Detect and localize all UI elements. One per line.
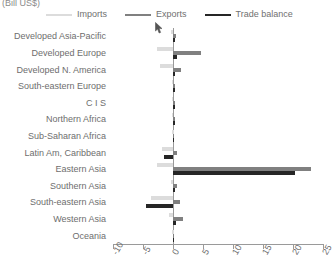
x-tick-label-6: 20: [291, 243, 304, 256]
legend-item-exports: Exports: [125, 10, 187, 19]
legend-label-balance: Trade balance: [236, 10, 293, 19]
chart-legend: ImportsExportsTrade balance: [46, 10, 293, 19]
category-label-0: Developed Asia-Pacific: [14, 32, 106, 41]
category-label-10: South-eastern Asia: [30, 198, 106, 207]
category-labels: Developed Asia-PacificDeveloped EuropeDe…: [0, 28, 110, 244]
bar-row: [113, 138, 323, 142]
category-label-9: Southern Asia: [50, 181, 106, 190]
x-tick-label-2: 0: [171, 248, 181, 257]
bar-balance-1: [173, 55, 177, 59]
legend-label-exports: Exports: [156, 10, 187, 19]
legend-item-imports: Imports: [46, 10, 107, 19]
bar-balance-5: [173, 121, 175, 125]
bar-balance-11: [173, 221, 176, 225]
category-label-2: Developed N. America: [16, 65, 106, 74]
category-label-6: Sub-Saharan Africa: [28, 132, 106, 141]
mouse-cursor-icon: [155, 22, 163, 34]
x-tick-label-5: 15: [261, 243, 274, 256]
bar-row: [113, 105, 323, 109]
bar-balance-7: [164, 155, 173, 159]
bar-balance-12: [173, 238, 174, 242]
bar-balance-6: [173, 138, 174, 142]
bar-row: [113, 171, 323, 175]
legend-label-imports: Imports: [77, 10, 107, 19]
bar-balance-2: [173, 72, 175, 76]
bar-balance-4: [173, 105, 175, 109]
category-label-5: Northern Africa: [46, 115, 106, 124]
category-label-12: Oceania: [72, 231, 106, 240]
category-label-3: South-eastern Europe: [18, 82, 106, 91]
bar-row: [113, 221, 323, 225]
category-label-4: C I S: [86, 98, 106, 107]
legend-swatch-balance: [205, 14, 231, 16]
bar-row: [113, 55, 323, 59]
legend-swatch-exports: [125, 14, 151, 16]
bar-row: [113, 38, 323, 42]
bar-balance-8: [173, 171, 295, 175]
x-tick-label-3: 5: [201, 248, 211, 257]
x-tick-label-1: -5: [141, 245, 153, 256]
bar-row: [113, 155, 323, 159]
category-label-1: Developed Europe: [31, 48, 106, 57]
bar-balance-10: [146, 204, 173, 208]
legend-swatch-imports: [46, 14, 72, 16]
bar-row: [113, 72, 323, 76]
bar-balance-9: [173, 188, 175, 192]
bar-row: [113, 238, 323, 242]
bar-row: [113, 121, 323, 125]
x-tick-label-4: 10: [231, 243, 244, 256]
chart-unit-title: (Bill US$): [2, 0, 40, 8]
category-label-7: Latin Am, Caribbean: [24, 148, 106, 157]
bar-row: [113, 88, 323, 92]
category-label-11: Western Asia: [53, 215, 106, 224]
plot-area: [113, 28, 323, 244]
legend-item-balance: Trade balance: [205, 10, 293, 19]
bar-row: [113, 204, 323, 208]
bar-balance-0: [173, 38, 175, 42]
bar-balance-3: [173, 88, 175, 92]
bar-row: [113, 188, 323, 192]
category-label-8: Eastern Asia: [55, 165, 106, 174]
x-tick-label-7: 25: [321, 243, 334, 256]
